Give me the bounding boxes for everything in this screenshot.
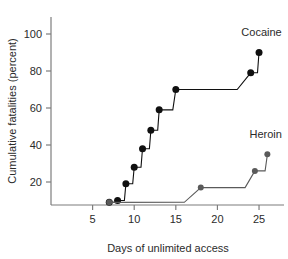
data-point xyxy=(264,151,270,157)
y-axis-ticks: 20406080100 xyxy=(24,28,51,188)
x-tick-label-5: 5 xyxy=(90,213,96,225)
fatalities-line-chart: 20406080100 510152025 CocaineHeroin Days… xyxy=(0,0,288,259)
y-tick-label-20: 20 xyxy=(30,176,42,188)
data-point xyxy=(156,106,163,113)
data-point xyxy=(131,164,138,171)
axes xyxy=(51,17,284,205)
data-point xyxy=(252,168,258,174)
y-tick-label-40: 40 xyxy=(30,139,42,151)
series-cocaine xyxy=(106,49,263,206)
x-tick-label-15: 15 xyxy=(170,213,182,225)
series-heroin xyxy=(106,151,270,205)
x-tick-label-25: 25 xyxy=(253,213,265,225)
series-label-cocaine: Cocaine xyxy=(241,26,281,38)
y-tick-label-60: 60 xyxy=(30,102,42,114)
data-point xyxy=(114,197,121,204)
data-point xyxy=(256,49,263,56)
x-tick-label-10: 10 xyxy=(128,213,140,225)
y-tick-label-100: 100 xyxy=(24,28,42,40)
data-point xyxy=(139,145,146,152)
y-tick-label-80: 80 xyxy=(30,65,42,77)
series-line-cocaine xyxy=(109,53,259,203)
series-label-heroin: Heroin xyxy=(249,128,281,140)
data-point xyxy=(198,185,204,191)
x-axis-title: Days of unlimited access xyxy=(107,242,229,254)
data-point xyxy=(172,86,179,93)
data-point xyxy=(247,69,254,76)
x-axis-ticks: 510152025 xyxy=(90,205,266,225)
chart-figure: 20406080100 510152025 CocaineHeroin Days… xyxy=(0,0,288,259)
y-axis-title: Cumulative fatalities (percent) xyxy=(6,38,18,184)
x-tick-label-20: 20 xyxy=(211,213,223,225)
series-layer xyxy=(106,49,271,206)
series-annotations: CocaineHeroin xyxy=(241,26,282,140)
data-point xyxy=(122,180,129,187)
data-point xyxy=(106,199,112,205)
data-point xyxy=(147,127,154,134)
